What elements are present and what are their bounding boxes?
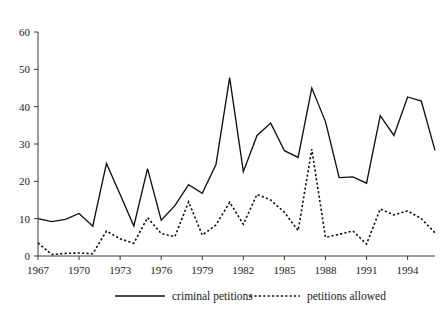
x-tick-label: 1967 bbox=[27, 264, 50, 276]
y-tick-label: 20 bbox=[19, 175, 31, 187]
y-tick-label: 40 bbox=[19, 101, 31, 113]
chart-figure: 0102030405060 19671970197319761979198219… bbox=[0, 0, 448, 317]
x-tick-label: 1982 bbox=[232, 264, 254, 276]
x-tick-label: 1979 bbox=[191, 264, 214, 276]
y-tick-label: 30 bbox=[19, 138, 31, 150]
line-chart: 0102030405060 19671970197319761979198219… bbox=[0, 0, 448, 317]
chart-legend: criminal petitionspetitions allowed bbox=[115, 290, 386, 303]
x-tick-label: 1991 bbox=[356, 264, 378, 276]
y-tick-label: 60 bbox=[19, 26, 31, 38]
y-axis: 0102030405060 bbox=[19, 26, 38, 262]
legend-label: petitions allowed bbox=[307, 290, 386, 303]
y-tick-label: 10 bbox=[19, 213, 31, 225]
x-tick-label: 1973 bbox=[109, 264, 132, 276]
x-tick-label: 1985 bbox=[273, 264, 296, 276]
x-axis: 1967197019731976197919821985198819911994 bbox=[27, 256, 435, 276]
y-tick-label: 0 bbox=[25, 250, 31, 262]
series-line-criminal-petitions bbox=[38, 78, 435, 227]
x-tick-label: 1988 bbox=[314, 264, 337, 276]
x-tick-label: 1970 bbox=[68, 264, 91, 276]
legend-label: criminal petitions bbox=[172, 290, 253, 303]
data-series-group bbox=[38, 78, 435, 255]
x-tick-label: 1976 bbox=[150, 264, 173, 276]
x-tick-label: 1994 bbox=[397, 264, 420, 276]
y-tick-label: 50 bbox=[19, 63, 31, 75]
